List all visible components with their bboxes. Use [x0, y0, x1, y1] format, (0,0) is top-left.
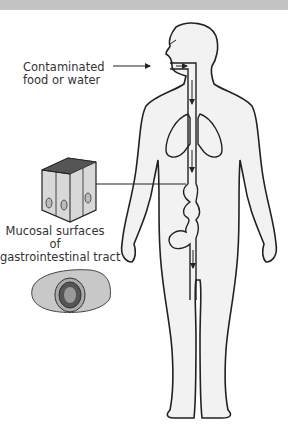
epithelial-cells: [42, 158, 96, 222]
mucosal-line3: gastrointestinal tract: [0, 251, 110, 264]
contaminated-line2: food or water: [23, 74, 105, 87]
mucosal-surfaces-label: Mucosal surfaces of gastrointestinal tra…: [0, 225, 110, 264]
contaminated-food-label: Contaminated food or water: [23, 61, 105, 87]
human-body-outline: [122, 23, 277, 418]
intestine-cross-section: [32, 270, 111, 313]
